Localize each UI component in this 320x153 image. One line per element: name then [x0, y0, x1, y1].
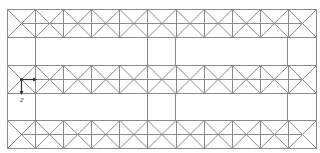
- origin-dot-icon: [20, 78, 23, 81]
- z-axis-label: z: [20, 97, 24, 104]
- truss-grid-drawing: [0, 0, 320, 153]
- truss-diagram: z: [0, 0, 320, 153]
